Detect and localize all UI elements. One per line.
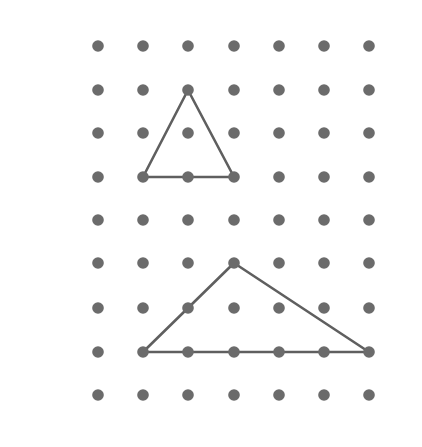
grid-dot-c1-r6 [92, 257, 104, 269]
grid-dot-c4-r7 [228, 302, 240, 314]
grid-dot-c4-r2 [228, 84, 240, 96]
lower-triangle [143, 263, 369, 352]
dot-grid-layer [92, 40, 375, 401]
grid-dot-c7-r7 [363, 302, 375, 314]
grid-dot-c5-r3 [273, 127, 285, 139]
geoboard-canvas [0, 0, 422, 447]
grid-dot-c3-r2 [182, 84, 194, 96]
grid-dot-c4-r3 [228, 127, 240, 139]
grid-dot-c5-r2 [273, 84, 285, 96]
grid-dot-c2-r7 [137, 302, 149, 314]
grid-dot-c6-r2 [318, 84, 330, 96]
grid-dot-c2-r1 [137, 40, 149, 52]
grid-dot-c3-r4 [182, 171, 194, 183]
grid-dot-c6-r6 [318, 257, 330, 269]
grid-dot-c6-r7 [318, 302, 330, 314]
grid-dot-c1-r8 [92, 346, 104, 358]
shape-layer [143, 90, 369, 352]
grid-dot-c3-r1 [182, 40, 194, 52]
grid-dot-c4-r4 [228, 171, 240, 183]
grid-dot-c6-r9 [318, 389, 330, 401]
grid-dot-c7-r8 [363, 346, 375, 358]
grid-dot-c5-r1 [273, 40, 285, 52]
grid-dot-c7-r5 [363, 214, 375, 226]
grid-dot-c3-r3 [182, 127, 194, 139]
grid-dot-c2-r9 [137, 389, 149, 401]
grid-dot-c4-r1 [228, 40, 240, 52]
grid-dot-c4-r6 [228, 257, 240, 269]
grid-dot-c7-r9 [363, 389, 375, 401]
grid-dot-c3-r6 [182, 257, 194, 269]
grid-dot-c5-r5 [273, 214, 285, 226]
grid-dot-c4-r5 [228, 214, 240, 226]
grid-dot-c1-r4 [92, 171, 104, 183]
grid-dot-c1-r1 [92, 40, 104, 52]
grid-dot-c3-r5 [182, 214, 194, 226]
grid-dot-c6-r5 [318, 214, 330, 226]
geoboard-figure [0, 0, 422, 447]
grid-dot-c5-r7 [273, 302, 285, 314]
grid-dot-c2-r4 [137, 171, 149, 183]
grid-dot-c1-r9 [92, 389, 104, 401]
grid-dot-c7-r4 [363, 171, 375, 183]
grid-dot-c1-r2 [92, 84, 104, 96]
grid-dot-c2-r5 [137, 214, 149, 226]
grid-dot-c7-r2 [363, 84, 375, 96]
grid-dot-c5-r6 [273, 257, 285, 269]
grid-dot-c5-r9 [273, 389, 285, 401]
grid-dot-c2-r6 [137, 257, 149, 269]
grid-dot-c3-r7 [182, 302, 194, 314]
grid-dot-c7-r3 [363, 127, 375, 139]
grid-dot-c4-r9 [228, 389, 240, 401]
grid-dot-c2-r8 [137, 346, 149, 358]
grid-dot-c1-r7 [92, 302, 104, 314]
grid-dot-c6-r3 [318, 127, 330, 139]
grid-dot-c7-r1 [363, 40, 375, 52]
grid-dot-c6-r8 [318, 346, 330, 358]
grid-dot-c5-r8 [273, 346, 285, 358]
grid-dot-c6-r4 [318, 171, 330, 183]
grid-dot-c2-r2 [137, 84, 149, 96]
grid-dot-c1-r5 [92, 214, 104, 226]
grid-dot-c7-r6 [363, 257, 375, 269]
grid-dot-c1-r3 [92, 127, 104, 139]
grid-dot-c6-r1 [318, 40, 330, 52]
grid-dot-c3-r9 [182, 389, 194, 401]
grid-dot-c2-r3 [137, 127, 149, 139]
grid-dot-c3-r8 [182, 346, 194, 358]
grid-dot-c5-r4 [273, 171, 285, 183]
grid-dot-c4-r8 [228, 346, 240, 358]
